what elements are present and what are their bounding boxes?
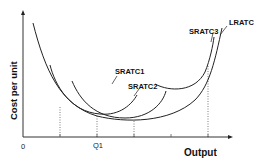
tangency-guides: [60, 66, 208, 137]
sratc2-label: SRATC2: [128, 82, 157, 91]
x-axis-arrow-icon: [228, 135, 233, 139]
sratc3-label: SRATC3: [189, 27, 218, 36]
lratc-label: LRATC: [229, 18, 254, 27]
origin-label: 0: [21, 142, 25, 151]
q1-label: Q1: [93, 141, 103, 150]
y-axis-label: Cost per unit: [8, 61, 19, 120]
cost-curves-diagram: LRATC SRATC3 SRATC1 SRATC2 0 Q1 Output C…: [0, 0, 261, 163]
y-axis-arrow-icon: [21, 10, 25, 15]
sratc1-label: SRATC1: [115, 67, 144, 76]
sratc3-curve: [155, 37, 214, 89]
x-axis-label: Output: [184, 147, 217, 158]
